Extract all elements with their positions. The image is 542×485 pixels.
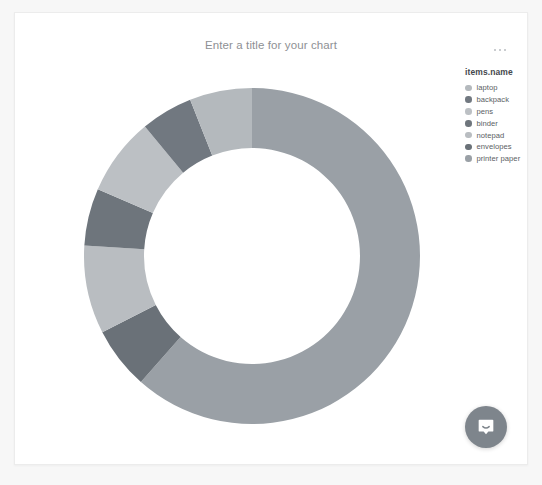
legend-swatch-icon <box>465 144 472 151</box>
legend-item[interactable]: notepad <box>453 129 525 141</box>
chart-card: Enter a title for your chart items.name … <box>14 12 528 465</box>
legend-item-label: notepad <box>477 131 505 140</box>
menu-dot <box>504 49 507 52</box>
chat-bubble-glyph <box>475 416 497 438</box>
legend-item[interactable]: binder <box>453 117 525 129</box>
legend-swatch-icon <box>465 132 472 139</box>
menu-dot <box>494 49 497 52</box>
donut-chart[interactable] <box>25 61 455 451</box>
legend-swatch-icon <box>465 85 472 92</box>
chart-title-placeholder[interactable]: Enter a title for your chart <box>15 39 527 51</box>
legend-item-label: printer paper <box>477 154 521 163</box>
donut-chart-svg <box>25 61 455 451</box>
legend-swatch-icon <box>465 96 472 103</box>
chat-bubble-icon[interactable] <box>465 406 507 448</box>
legend-item[interactable]: pens <box>453 106 525 118</box>
legend-item-label: pens <box>477 107 494 116</box>
legend-item[interactable]: printer paper <box>453 153 525 165</box>
legend-item-label: laptop <box>477 83 498 92</box>
ellipsis-horizontal-icon[interactable] <box>487 39 513 61</box>
legend-item-label: binder <box>477 119 498 128</box>
legend-title: items.name <box>465 67 525 77</box>
legend-item[interactable]: backpack <box>453 94 525 106</box>
legend-item[interactable]: envelopes <box>453 141 525 153</box>
legend-swatch-icon <box>465 155 472 162</box>
legend-item-label: envelopes <box>477 142 512 151</box>
legend-item[interactable]: laptop <box>453 82 525 94</box>
legend-swatch-icon <box>465 108 472 115</box>
menu-dot <box>499 49 502 52</box>
legend-swatch-icon <box>465 120 472 127</box>
chart-legend: items.name laptopbackpackpensbindernotep… <box>453 67 525 165</box>
legend-item-label: backpack <box>477 95 509 104</box>
legend-item-list: laptopbackpackpensbindernotepadenvelopes… <box>453 82 525 165</box>
